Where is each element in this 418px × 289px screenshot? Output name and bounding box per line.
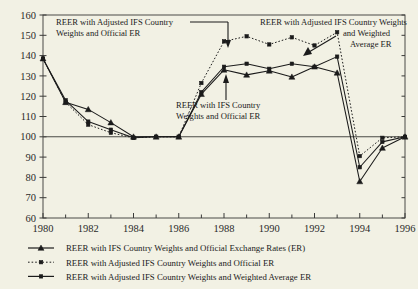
data-point (154, 135, 157, 138)
reer-line-chart: 60708090100110120130140150160 1980198219… (0, 0, 418, 289)
y-tick-label: 110 (21, 111, 36, 122)
data-point (132, 136, 135, 139)
y-tick-label: 100 (20, 131, 36, 142)
data-point (335, 31, 338, 34)
chart-legend: REER with IFS Country Weights and Offici… (28, 243, 311, 281)
y-tick-label: 90 (26, 152, 37, 163)
legend-marker-icon (39, 275, 42, 278)
data-point (403, 135, 406, 138)
x-tick-label: 1988 (214, 223, 235, 234)
data-point (109, 128, 112, 131)
x-tick-label: 1984 (123, 223, 145, 234)
x-tick-label: 1994 (349, 223, 371, 234)
data-point (200, 90, 203, 93)
y-tick-label: 130 (20, 71, 36, 82)
chart-container: 60708090100110120130140150160 1980198219… (0, 0, 418, 289)
x-tick-label: 1992 (304, 223, 325, 234)
legend-marker-icon (39, 261, 42, 264)
x-tick-label: 1986 (168, 223, 189, 234)
data-point (87, 120, 90, 123)
legend-label: REER with IFS Country Weights and Offici… (66, 243, 305, 253)
y-tick-label: 120 (20, 91, 36, 102)
y-tick-label: 70 (26, 192, 37, 203)
x-tick-label: 1996 (395, 223, 416, 234)
data-point (177, 135, 180, 138)
legend-item-3[interactable]: REER with Adjusted IFS Country Weights a… (28, 272, 311, 282)
data-point (222, 65, 225, 68)
data-point (268, 43, 271, 46)
annotation-line: REER with Adjusted IFS Country (56, 17, 174, 27)
data-point (200, 81, 203, 84)
data-point (358, 154, 361, 157)
legend-item-1[interactable]: REER with IFS Country Weights and Offici… (28, 243, 305, 253)
y-tick-label: 80 (26, 172, 37, 183)
data-point (245, 35, 248, 38)
data-point (358, 166, 361, 169)
y-tick-label: 160 (20, 10, 36, 21)
x-tick-label: 1980 (33, 223, 54, 234)
data-point (313, 44, 316, 47)
data-point (245, 62, 248, 65)
data-point (290, 62, 293, 65)
annotation-line: REER with Adjusted IFS Country Weights (260, 17, 408, 27)
data-point (381, 136, 384, 139)
data-point (290, 36, 293, 39)
y-tick-label: 140 (20, 50, 36, 61)
y-tick-label: 150 (20, 30, 36, 41)
data-point (64, 99, 67, 102)
data-point (335, 55, 338, 58)
annotation-line: REER with IFS Country (176, 100, 261, 110)
data-point (381, 140, 384, 143)
x-tick-label: 1990 (259, 223, 280, 234)
data-point (41, 57, 44, 60)
data-point (313, 65, 316, 68)
legend-label: REER with Adjusted IFS Country Weights a… (66, 272, 311, 282)
x-tick-label: 1982 (78, 223, 99, 234)
annotation-line: Average ER (350, 39, 392, 49)
legend-label: REER with Adjusted IFS Country Weights a… (66, 258, 274, 268)
data-point (268, 67, 271, 70)
annotation-line: and Weighted (343, 28, 391, 38)
annotation-line: Weights and Official ER (176, 111, 261, 121)
annotation-line: Weights and Official ER (56, 28, 141, 38)
